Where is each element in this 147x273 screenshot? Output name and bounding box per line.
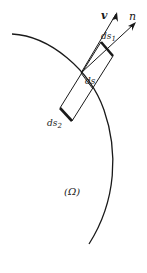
- region-boundary-curve: [12, 34, 113, 244]
- velocity-vector-line: [81, 14, 116, 73]
- ds2-label: ds2: [47, 118, 62, 130]
- ds2-surface-element: [60, 108, 72, 121]
- ds1-label: ds1: [101, 31, 116, 43]
- velocity-label: v: [101, 9, 108, 22]
- velocity-arrowhead-icon: [112, 12, 118, 22]
- normal-arrowhead-icon: [128, 22, 136, 31]
- ds-label: ds: [85, 76, 96, 86]
- region-omega-label: (Ω): [64, 186, 80, 197]
- flux-tube-diagram: v n ds1 ds ds2 (Ω): [0, 0, 147, 273]
- tube-side-upper: [60, 42, 101, 108]
- normal-label: n: [129, 10, 136, 23]
